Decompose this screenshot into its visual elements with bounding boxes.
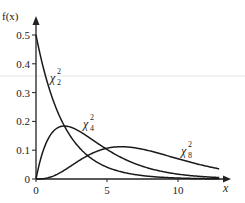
chart-canvas: 00.10.20.30.40.50510f(x)x χ22χ42χ82 xyxy=(0,0,245,203)
x-tick-label: 10 xyxy=(173,184,185,196)
x-tick-label: 5 xyxy=(104,184,110,196)
curve-label-2: χ22 xyxy=(49,67,61,87)
svg-text:2: 2 xyxy=(90,113,94,122)
y-tick-label: 0.1 xyxy=(16,144,30,156)
svg-text:4: 4 xyxy=(90,124,94,133)
svg-text:8: 8 xyxy=(188,151,192,160)
x-tick-label: 0 xyxy=(33,184,39,196)
y-tick-label: 0.5 xyxy=(16,29,30,41)
svg-text:2: 2 xyxy=(57,67,61,76)
svg-text:χ: χ xyxy=(180,144,187,158)
curve-label-4: χ42 xyxy=(82,113,94,133)
y-tick-label: 0.2 xyxy=(16,115,30,127)
y-tick-label: 0 xyxy=(25,173,31,185)
y-axis-label: f(x) xyxy=(2,10,19,23)
curve-label-8: χ82 xyxy=(180,140,192,160)
svg-text:2: 2 xyxy=(57,78,61,87)
x-axis-label: x xyxy=(222,181,229,195)
svg-text:χ: χ xyxy=(82,117,89,131)
y-tick-label: 0.3 xyxy=(16,87,30,99)
svg-text:2: 2 xyxy=(188,140,192,149)
y-tick-label: 0.4 xyxy=(16,58,30,70)
y-axis-arrow-icon xyxy=(33,16,40,25)
svg-text:χ: χ xyxy=(49,71,56,85)
